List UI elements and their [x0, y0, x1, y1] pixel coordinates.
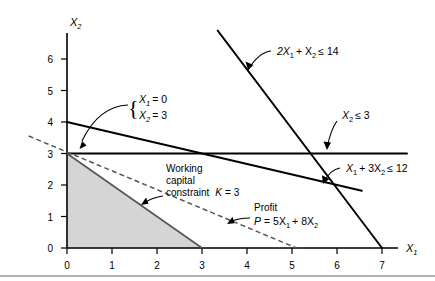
profit-label-line1: Profit	[254, 202, 278, 213]
x-tick-label-6: 6	[334, 260, 340, 271]
x-tick-label-0: 0	[64, 260, 70, 271]
y-tick-label-5: 5	[47, 86, 53, 97]
x-tick-label-2: 2	[154, 260, 160, 271]
y-tick-label-6: 6	[47, 54, 53, 65]
y-tick-label-0: 0	[47, 243, 53, 254]
y-tick-label-1: 1	[47, 212, 53, 223]
x-tick-label-5: 5	[289, 260, 295, 271]
x-tick-label-3: 3	[199, 260, 205, 271]
working-capital-line2: capital	[166, 175, 195, 186]
x-tick-label-7: 7	[379, 260, 385, 271]
linear-programming-figure: 0 1 2 3 4 5 6 0 1 2 3 4 5 6 7 X2 X1 { X1…	[0, 0, 435, 281]
y-tick-label-4: 4	[47, 117, 53, 128]
figure-background	[0, 0, 435, 281]
x-tick-label-1: 1	[109, 260, 115, 271]
y-tick-label-2: 2	[47, 180, 53, 191]
vertex-brace: {	[128, 95, 139, 120]
working-capital-line3: constraintK= 3	[166, 187, 240, 198]
x-tick-label-4: 4	[244, 260, 250, 271]
working-capital-line1: Working	[166, 163, 203, 174]
y-tick-label-3: 3	[47, 149, 53, 160]
